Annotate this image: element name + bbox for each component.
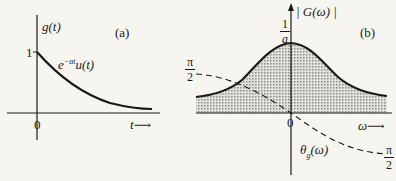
- panel-a-curve-label: e−atu(t): [58, 58, 94, 71]
- right-phase-numerator: π: [386, 144, 392, 156]
- peak-numerator: 1: [282, 18, 288, 30]
- panel-a-exponential-curve: [37, 52, 152, 109]
- right-phase-value-label: π2: [384, 144, 394, 171]
- panel-b-x-axis-label: ω⟶: [358, 119, 384, 132]
- panel-a-origin-label: 0: [34, 118, 41, 131]
- left-phase-value-label: π2: [185, 56, 195, 83]
- right-phase-denominator: 2: [386, 159, 392, 171]
- phase-curve-label: θg(ω): [300, 143, 328, 160]
- curve-label-exponent: −at: [64, 57, 76, 66]
- peak-denominator: a: [282, 33, 288, 45]
- panel-b-tag: (b): [360, 26, 375, 39]
- panel-b-y-axis-label: | G(ω) |: [296, 5, 337, 18]
- left-phase-denominator: 2: [187, 71, 193, 83]
- omega-arrow-icon: ⟶: [367, 119, 384, 133]
- peak-value-label: 1a: [280, 18, 290, 45]
- theta-argument: (ω): [310, 142, 328, 157]
- left-phase-numerator: π: [187, 56, 193, 68]
- x-axis-arrow-icon: ⟶: [134, 118, 151, 132]
- curve-label-rest: u(t): [75, 57, 94, 72]
- panel-b-origin-label: 0: [287, 116, 294, 129]
- panel-a-y-tick-label: 1: [26, 46, 33, 59]
- omega-variable: ω: [358, 118, 367, 133]
- panel-b-y-axis-arrowhead: [288, 3, 294, 11]
- panel-a-x-axis-label: t⟶: [130, 118, 151, 131]
- panel-a-y-axis-label: g(t): [42, 20, 61, 33]
- panel-a-tag: (a): [115, 26, 129, 39]
